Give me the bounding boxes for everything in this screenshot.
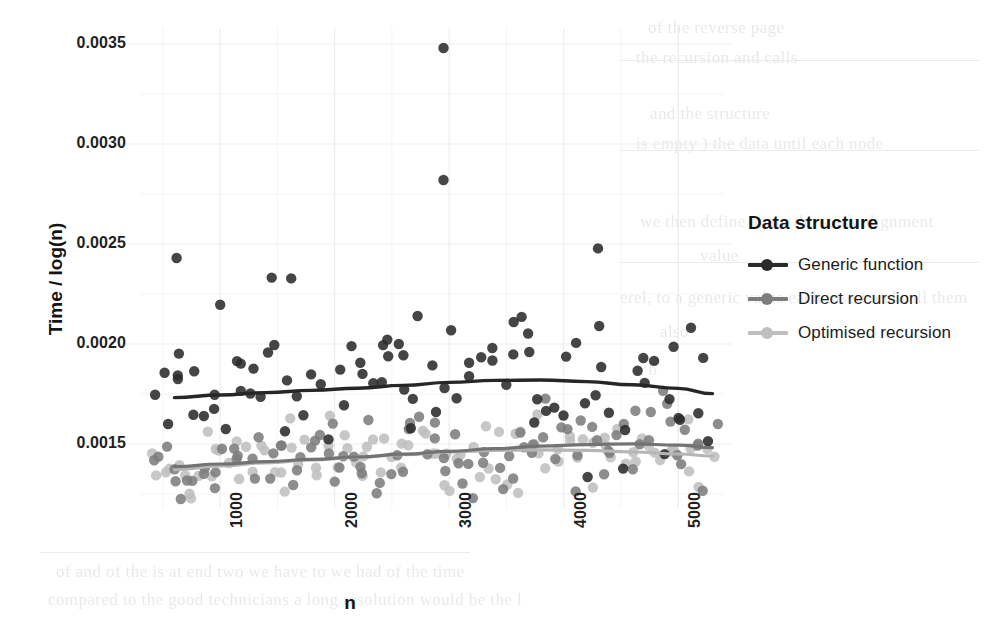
legend-entry-label: Generic function <box>798 255 923 275</box>
legend-key-icon <box>748 289 788 309</box>
x-tick-label: 3000 <box>457 492 475 528</box>
outlier-point <box>171 253 181 263</box>
outlier-point <box>286 273 296 283</box>
outlier-point <box>394 339 404 349</box>
outlier-point <box>668 342 678 352</box>
legend-title: Data structure <box>748 212 988 234</box>
y-tick-label: 0.0015 <box>40 434 126 452</box>
legend-entries: Generic functionDirect recursionOptimise… <box>748 248 988 350</box>
legend-key-icon <box>748 255 788 275</box>
outlier-point <box>593 243 603 253</box>
outlier-point <box>508 349 518 359</box>
legend: Data structure Generic functionDirect re… <box>748 212 988 350</box>
outlier-point <box>524 347 534 357</box>
legend-entry-label: Optimised recursion <box>798 323 951 343</box>
series-points-0 <box>150 43 713 482</box>
outlier-point <box>174 348 184 358</box>
outlier-point <box>382 334 392 344</box>
y-tick-label: 0.0035 <box>40 34 126 52</box>
y-tick-label: 0.0030 <box>40 134 126 152</box>
x-tick-label: 5000 <box>686 492 704 528</box>
y-axis-title: Time / log(n) <box>45 179 67 379</box>
legend-entry-2[interactable]: Optimised recursion <box>748 316 988 350</box>
legend-entry-label: Direct recursion <box>798 289 919 309</box>
x-tick-label: 2000 <box>343 492 361 528</box>
legend-entry-1[interactable]: Direct recursion <box>748 282 988 316</box>
legend-entry-0[interactable]: Generic function <box>748 248 988 282</box>
legend-key-icon <box>748 323 788 343</box>
outlier-point <box>236 358 246 368</box>
outlier-point <box>438 43 448 53</box>
outlier-point <box>398 350 408 360</box>
outlier-point <box>267 272 277 282</box>
outlier-point <box>215 300 225 310</box>
scatter-points <box>147 43 723 504</box>
x-axis-title: n <box>0 592 700 614</box>
outlier-point <box>438 175 448 185</box>
x-tick-label: 4000 <box>572 492 590 528</box>
outlier-point <box>594 321 604 331</box>
x-tick-label: 1000 <box>228 492 246 528</box>
scatter-chart-figure: 0.00150.00200.00250.00300.00351000200030… <box>0 0 994 630</box>
